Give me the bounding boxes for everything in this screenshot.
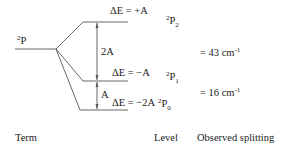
column-term: Term <box>15 133 37 144</box>
energy-label-middle: ΔE = −A <box>112 68 150 79</box>
energy-label-bottom: ΔE = −2A <box>112 98 155 109</box>
splitting-lower: = 16 cm-1 <box>200 87 240 99</box>
splitting-exponent: -1 <box>235 86 241 94</box>
connector-middle <box>56 49 83 81</box>
level-label-bottom: 2P0 <box>158 98 171 112</box>
connector-bottom <box>56 49 80 110</box>
arrowhead-down-icon <box>96 75 99 80</box>
splitting-exponent: -1 <box>235 46 241 54</box>
connector-top <box>56 22 83 49</box>
level-label-middle: 2P1 <box>166 71 179 85</box>
term-symbol: P <box>21 35 27 46</box>
level-j: 2 <box>175 21 179 29</box>
splitting-value: = 43 cm <box>200 47 235 58</box>
level-label-top: 2P2 <box>166 15 179 29</box>
arrowhead-up-icon <box>96 82 99 87</box>
column-level: Level <box>154 133 178 144</box>
level-j: 0 <box>167 104 171 112</box>
energy-level-diagram: 2P ΔE = +A 2A ΔE = −A A ΔE = −2A 2P2 2P1… <box>0 0 285 150</box>
splitting-upper: = 43 cm-1 <box>200 47 240 59</box>
energy-label-top: ΔE = +A <box>110 6 148 17</box>
arrowhead-down-icon <box>96 104 99 109</box>
gap-label-A: A <box>101 90 109 101</box>
column-observed-splitting: Observed splitting <box>197 133 274 144</box>
term-label: 2P <box>17 35 26 47</box>
gap-label-2A: 2A <box>101 47 114 58</box>
splitting-value: = 16 cm <box>200 87 235 98</box>
level-j: 1 <box>175 77 179 85</box>
arrowhead-up-icon <box>96 23 99 28</box>
